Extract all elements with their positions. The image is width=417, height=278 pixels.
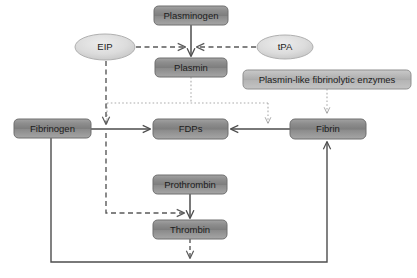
node-label-plasmin: Plasmin	[174, 62, 208, 73]
node-thrombin[interactable]: Thrombin	[153, 220, 227, 239]
node-label-prothrombin: Prothrombin	[164, 179, 216, 190]
node-label-plasmin-like-fibrinolytic-enzymes: Plasmin-like fibrinolytic enzymes	[259, 74, 396, 85]
edge-eip-to-prothrombin-thrombin-arrow	[106, 133, 184, 213]
node-prothrombin[interactable]: Prothrombin	[153, 175, 227, 194]
node-label-fibrin: Fibrin	[316, 123, 340, 134]
node-label-fibrinogen: Fibrinogen	[30, 123, 75, 134]
node-label-tpa: tPA	[278, 41, 293, 52]
node-plasmin[interactable]: Plasmin	[155, 58, 227, 77]
node-eip[interactable]: EIP	[75, 34, 135, 60]
node-label-plasminogen: Plasminogen	[164, 10, 219, 21]
edge-fibrinogen-bottom-bus-to-fibrin	[51, 138, 327, 262]
pathway-diagram: Plasminogen EIP tPA Plasmin Plasmin-like…	[0, 0, 417, 278]
node-label-eip: EIP	[97, 41, 112, 52]
node-label-fdps: FDPs	[179, 123, 203, 134]
node-plasmin-like-fibrinolytic-enzymes[interactable]: Plasmin-like fibrinolytic enzymes	[243, 70, 411, 89]
node-label-thrombin: Thrombin	[170, 224, 210, 235]
node-fdps[interactable]: FDPs	[153, 119, 228, 139]
node-fibrin[interactable]: Fibrin	[290, 119, 366, 139]
node-tpa[interactable]: tPA	[257, 35, 313, 59]
node-fibrinogen[interactable]: Fibrinogen	[14, 119, 91, 138]
node-plasminogen[interactable]: Plasminogen	[154, 6, 228, 25]
diagram-canvas: Plasminogen EIP tPA Plasmin Plasmin-like…	[0, 0, 417, 278]
